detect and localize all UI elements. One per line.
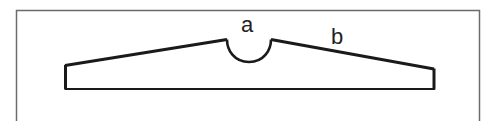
profile-diagram: a b <box>0 0 500 121</box>
label-a: a <box>241 12 254 37</box>
profile-right-slope <box>271 40 434 70</box>
notch-curve <box>227 40 271 63</box>
profile-left-slope <box>65 40 227 66</box>
label-b: b <box>331 24 343 49</box>
diagram-canvas: a b <box>0 0 500 121</box>
